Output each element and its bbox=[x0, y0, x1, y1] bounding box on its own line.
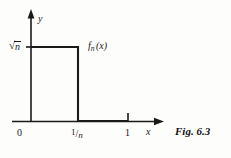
x-tick-label-one: 1 bbox=[125, 128, 130, 138]
y-axis-arrowhead bbox=[28, 9, 35, 19]
sqrt-symbol-group: √ n bbox=[9, 41, 21, 52]
y-axis-label: y bbox=[38, 14, 42, 24]
function-label-subscript: n bbox=[91, 44, 95, 53]
y-tick-label-sqrt-n: √ n bbox=[9, 41, 21, 52]
x-tick-label-one-over-n: 1/n bbox=[71, 128, 83, 140]
radical-sign-icon: √ bbox=[9, 40, 15, 51]
step-function-curve bbox=[31, 47, 128, 121]
x-tick-label-origin: 0 bbox=[17, 128, 22, 138]
fraction-denominator: n bbox=[78, 130, 83, 140]
x-axis-label: x bbox=[146, 127, 150, 137]
function-label-argument: (x) bbox=[96, 40, 107, 51]
radicand-n: n bbox=[14, 41, 21, 52]
figure-caption: Fig. 6.3 bbox=[175, 126, 210, 137]
function-label: fn(x) bbox=[88, 41, 107, 53]
figure-container: y x √ n fn(x) 0 1/n 1 Fig. 6.3 bbox=[0, 0, 231, 158]
x-axis-arrowhead bbox=[154, 118, 164, 125]
